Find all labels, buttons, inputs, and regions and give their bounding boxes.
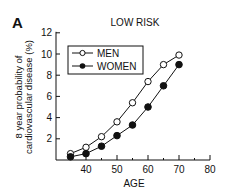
x-axis-label: AGE bbox=[123, 178, 144, 189]
y-tick-label: 6 bbox=[46, 91, 52, 102]
panel-label: A bbox=[12, 14, 23, 31]
filled-circle-marker-icon bbox=[114, 132, 121, 139]
x-tick-label: 60 bbox=[142, 164, 154, 175]
legend-women-label: WOMEN bbox=[97, 61, 136, 72]
filled-circle-marker-icon bbox=[67, 154, 74, 161]
open-circle-marker-icon bbox=[160, 61, 166, 67]
open-circle-marker-icon bbox=[83, 144, 89, 150]
filled-circle-marker-icon bbox=[176, 61, 183, 68]
x-tick-label: 70 bbox=[173, 164, 185, 175]
y-axis-label: 8 year probability of cardiovascular dis… bbox=[13, 40, 34, 154]
legend-women-marker-icon bbox=[80, 63, 86, 69]
legend-men-marker-icon bbox=[80, 50, 85, 55]
y-tick-label: 12 bbox=[41, 27, 53, 38]
filled-circle-marker-icon bbox=[160, 83, 167, 90]
legend-men-label: MEN bbox=[97, 48, 119, 59]
filled-circle-marker-icon bbox=[98, 143, 105, 150]
y-tick-label: 4 bbox=[46, 112, 52, 123]
filled-circle-marker-icon bbox=[129, 122, 136, 129]
x-tick-label: 80 bbox=[204, 164, 216, 175]
open-circle-marker-icon bbox=[114, 119, 120, 125]
series-line bbox=[71, 65, 180, 157]
open-circle-marker-icon bbox=[129, 100, 135, 106]
filled-circle-marker-icon bbox=[145, 104, 152, 111]
y-tick-label: 8 bbox=[46, 70, 52, 81]
y-axis-label-line-2: cardiovascular disease (%) bbox=[23, 40, 34, 154]
open-circle-marker-icon bbox=[176, 52, 182, 58]
x-tick-label: 40 bbox=[80, 164, 92, 175]
legend: MEN WOMEN bbox=[68, 46, 143, 74]
filled-circle-marker-icon bbox=[83, 150, 90, 157]
chart-title: LOW RISK bbox=[111, 17, 160, 28]
x-tick-labels: 4050607080 bbox=[80, 164, 216, 175]
y-tick-label: 2 bbox=[46, 133, 52, 144]
open-circle-marker-icon bbox=[98, 133, 104, 139]
y-tick-label: 10 bbox=[41, 49, 53, 60]
x-tick-label: 50 bbox=[111, 164, 123, 175]
line-chart: A LOW RISK 8 year probability of cardiov… bbox=[0, 0, 227, 194]
y-tick-labels: 24681012 bbox=[41, 27, 53, 144]
open-circle-marker-icon bbox=[145, 78, 151, 84]
